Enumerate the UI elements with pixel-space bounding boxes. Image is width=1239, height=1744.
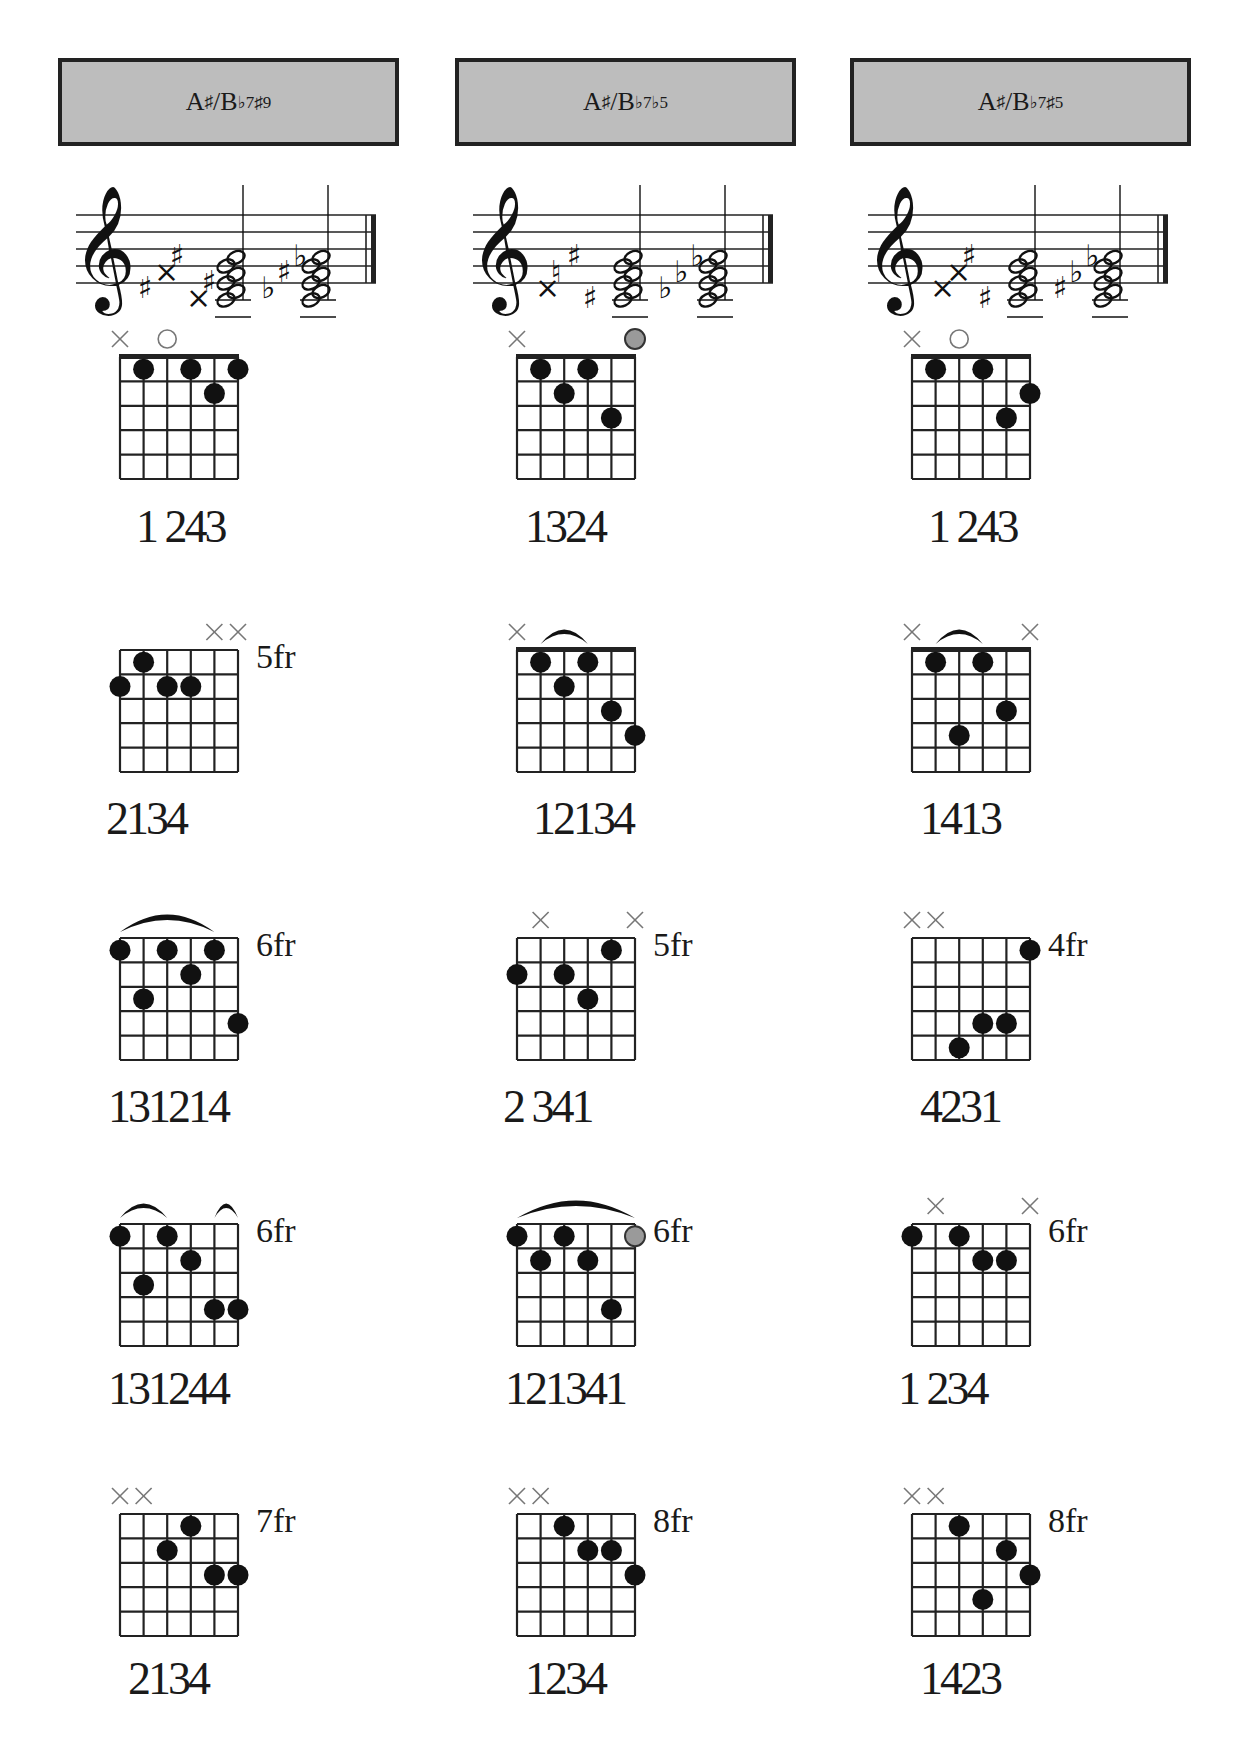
- optional-finger-dot: [625, 1226, 645, 1246]
- finger-dot: [925, 652, 946, 673]
- finger-dot: [133, 652, 154, 673]
- finger-dot: [996, 1013, 1017, 1034]
- muted-string-icon: [1022, 624, 1038, 640]
- finger-dot: [577, 1540, 598, 1561]
- finger-dot: [180, 676, 201, 697]
- chord-title: A♯/B♭7♯9: [58, 58, 399, 146]
- finger-dot: [133, 989, 154, 1010]
- fret-position-label: 6fr: [256, 926, 296, 964]
- finger-dot: [228, 1299, 249, 1320]
- finger-dot: [204, 940, 225, 961]
- svg-text:♭: ♭: [690, 238, 704, 273]
- chord-bass: /B: [610, 87, 635, 117]
- optional-open-string-icon: [625, 329, 645, 349]
- finger-dot: [996, 408, 1017, 429]
- fret-position-label: 6fr: [1048, 1212, 1088, 1250]
- fingering-label: 2134: [128, 1652, 208, 1705]
- muted-string-icon: [206, 624, 222, 640]
- finger-dot: [972, 359, 993, 380]
- finger-dot: [530, 1250, 551, 1271]
- fret-position-label: 6fr: [256, 1212, 296, 1250]
- svg-text:♯: ♯: [202, 264, 217, 299]
- finger-dot: [110, 676, 131, 697]
- fingering-label: 1 243: [928, 500, 1017, 553]
- svg-text:♯: ♯: [567, 238, 582, 273]
- finger-dot: [530, 359, 551, 380]
- muted-string-icon: [904, 912, 920, 928]
- chord-extension: ♭7♯9: [238, 92, 272, 113]
- finger-dot: [996, 1250, 1017, 1271]
- fingering-label: 1 243: [136, 500, 225, 553]
- nut: [119, 354, 239, 359]
- barre-arc-icon: [120, 914, 214, 932]
- finger-dot: [554, 676, 575, 697]
- finger-dot: [554, 1516, 575, 1537]
- barre-arc-icon: [120, 1204, 167, 1218]
- finger-dot: [157, 1226, 178, 1247]
- finger-dot: [204, 1299, 225, 1320]
- muted-string-icon: [904, 331, 920, 347]
- finger-dot: [157, 676, 178, 697]
- finger-dot: [601, 701, 622, 722]
- finger-dot: [949, 1037, 970, 1058]
- svg-text:♯: ♯: [170, 238, 185, 273]
- finger-dot: [601, 940, 622, 961]
- fret-position-label: 7fr: [256, 1502, 296, 1540]
- finger-dot: [577, 989, 598, 1010]
- svg-text:♭: ♭: [293, 238, 307, 273]
- barre-arc-icon: [214, 1204, 238, 1218]
- finger-dot: [554, 383, 575, 404]
- finger-dot: [1020, 940, 1041, 961]
- fingering-label: 1 234: [898, 1362, 987, 1415]
- music-staff: 𝄞×♮♯♯♭♭♭: [473, 160, 803, 320]
- chord-extension: ♭7♯5: [1030, 92, 1064, 113]
- finger-dot: [133, 359, 154, 380]
- muted-string-icon: [533, 912, 549, 928]
- fret-position-label: 5fr: [256, 638, 296, 676]
- finger-dot: [949, 1516, 970, 1537]
- muted-string-icon: [928, 912, 944, 928]
- fingering-label: 2 341: [503, 1080, 592, 1133]
- muted-string-icon: [904, 624, 920, 640]
- muted-string-icon: [136, 1488, 152, 1504]
- finger-dot: [972, 652, 993, 673]
- svg-text:♭: ♭: [674, 254, 688, 289]
- finger-dot: [554, 1226, 575, 1247]
- muted-string-icon: [1022, 1198, 1038, 1214]
- finger-dot: [625, 725, 646, 746]
- finger-dot: [577, 652, 598, 673]
- chord-root: A: [186, 87, 205, 117]
- svg-text:♯: ♯: [277, 254, 292, 289]
- finger-dot: [133, 1275, 154, 1296]
- open-string-icon: [158, 330, 176, 348]
- muted-string-icon: [230, 624, 246, 640]
- barre-arc-icon: [541, 630, 588, 644]
- muted-string-icon: [509, 1488, 525, 1504]
- finger-dot: [902, 1226, 923, 1247]
- finger-dot: [601, 1299, 622, 1320]
- fingering-label: 1413: [920, 792, 1000, 845]
- svg-text:♮: ♮: [551, 254, 562, 289]
- sharp-sign: ♯: [602, 92, 611, 112]
- muted-string-icon: [627, 912, 643, 928]
- finger-dot: [625, 1565, 646, 1586]
- finger-dot: [577, 1250, 598, 1271]
- muted-string-icon: [928, 1198, 944, 1214]
- fret-position-label: 6fr: [653, 1212, 693, 1250]
- barre-arc-icon: [936, 630, 983, 644]
- chord-title: A♯/B♭7♯5: [850, 58, 1191, 146]
- chord-extension: ♭7♭5: [635, 92, 668, 113]
- fingering-label: 131244: [108, 1362, 228, 1415]
- finger-dot: [554, 964, 575, 985]
- fingering-label: 131214: [108, 1080, 228, 1133]
- finger-dot: [157, 940, 178, 961]
- chord-column-1: A♯/B♭7♯9𝄞♯×♯×♯♭♯♭1 2435fr21346fr1312146f…: [58, 0, 403, 1744]
- muted-string-icon: [112, 1488, 128, 1504]
- fret-position-label: 8fr: [1048, 1502, 1088, 1540]
- chord-root: A: [978, 87, 997, 117]
- music-staff: 𝄞♯×♯×♯♭♯♭: [76, 160, 406, 320]
- fret-position-label: 5fr: [653, 926, 693, 964]
- finger-dot: [204, 383, 225, 404]
- finger-dot: [530, 652, 551, 673]
- finger-dot: [180, 1250, 201, 1271]
